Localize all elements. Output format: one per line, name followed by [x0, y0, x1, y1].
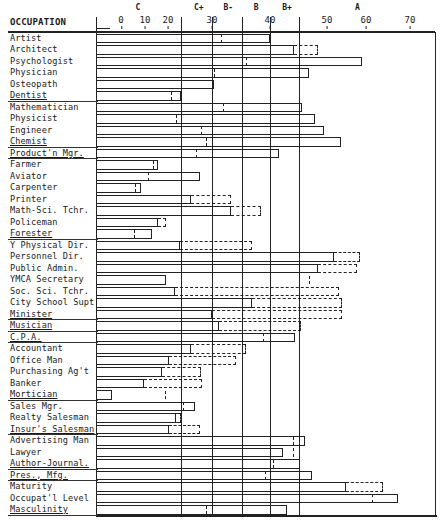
grade-label: A	[355, 3, 360, 12]
score-bar-solid	[96, 45, 294, 55]
score-bar-solid	[96, 275, 166, 285]
row-label: Banker	[10, 378, 42, 389]
grade-label: B-	[223, 3, 233, 12]
row-label: Osteopath	[10, 79, 57, 90]
score-marker-dashed	[196, 149, 197, 158]
row-label: Purchasing Ag't	[10, 366, 89, 377]
score-bar-solid	[96, 436, 305, 446]
score-marker-dashed	[148, 172, 149, 181]
row-label: Accountant	[10, 343, 63, 354]
score-bar-solid	[96, 459, 300, 469]
row-label: Advertising Man	[10, 435, 89, 446]
score-marker-dashed	[263, 333, 264, 342]
score-bar-solid	[96, 425, 169, 435]
score-bar-dashed-extension	[252, 298, 342, 308]
row-label: Masculinity	[10, 504, 68, 515]
row-label: Printer	[10, 194, 47, 205]
right-border-line	[435, 32, 436, 516]
score-bar-dashed-extension	[180, 241, 252, 251]
row-label: Mortician	[10, 389, 57, 400]
score-bar-dashed-extension	[169, 425, 200, 435]
row-label: Public Admin.	[10, 263, 79, 274]
score-bar-dashed-extension	[175, 287, 339, 297]
row-label: Minister	[10, 309, 52, 320]
score-bar-solid	[96, 482, 346, 492]
score-marker-dashed	[213, 80, 214, 89]
score-bar-solid	[96, 114, 315, 124]
score-bar-solid	[96, 494, 398, 504]
row-label: Physician	[10, 67, 57, 78]
score-bar-dashed-extension	[318, 264, 357, 274]
x-tick-label: 10	[140, 15, 151, 25]
score-bar-solid	[96, 80, 214, 90]
score-marker-dashed	[135, 184, 136, 193]
score-bar-solid	[96, 91, 181, 101]
score-bar-solid	[96, 448, 283, 458]
score-marker-dashed	[221, 34, 222, 43]
score-bar-solid	[96, 333, 295, 343]
row-label: Dentist	[10, 90, 47, 101]
score-marker-dashed	[223, 103, 224, 112]
occupational-interest-chart: OCCUPATION CC+B-BB+A 010203040506070 Art…	[0, 0, 442, 524]
score-bar-dashed-extension	[212, 310, 342, 320]
grade-label: B	[254, 3, 259, 12]
score-bar-solid	[96, 103, 302, 113]
score-marker-dashed	[265, 471, 266, 480]
score-bar-dashed-extension	[191, 344, 246, 354]
score-bar-solid	[96, 471, 312, 481]
score-marker-dashed	[153, 161, 154, 170]
score-bar-dashed-extension	[334, 252, 360, 262]
score-bar-solid	[96, 149, 279, 159]
score-bar-solid	[96, 126, 324, 136]
score-bar-solid	[96, 298, 252, 308]
score-bar-solid	[96, 287, 175, 297]
row-label: Math-Sci. Tchr.	[10, 205, 89, 216]
score-bar-solid	[96, 356, 169, 366]
group-separator	[8, 515, 98, 516]
score-bar-solid	[96, 229, 152, 239]
score-bar-solid	[96, 505, 287, 515]
score-bar-solid	[96, 367, 162, 377]
score-bar-solid	[96, 34, 270, 44]
score-marker-dashed	[176, 115, 177, 124]
score-bar-solid	[96, 402, 195, 412]
score-bar-solid	[96, 344, 191, 354]
score-marker-dashed	[214, 69, 215, 78]
row-label: Insur's Salesman	[10, 424, 94, 435]
row-label: Author-Journal.	[10, 458, 89, 469]
score-bar-dashed-extension	[191, 195, 231, 205]
zero-baseline-stub	[96, 28, 110, 29]
row-label: Artist	[10, 33, 42, 44]
row-label: Physicist	[10, 113, 57, 124]
score-bar-dashed-extension	[158, 218, 166, 228]
score-bar-solid	[96, 252, 334, 262]
row-label: Policeman	[10, 217, 57, 228]
row-label: Personnel Dir.	[10, 251, 84, 262]
row-label: Maturity	[10, 481, 52, 492]
score-bar-solid	[96, 321, 219, 331]
row-label: Forester	[10, 228, 52, 239]
score-bar-dashed-extension	[162, 367, 201, 377]
score-bar-solid	[96, 195, 191, 205]
row-label: Musician	[10, 320, 52, 331]
header-rule	[8, 31, 435, 33]
row-label: Carpenter	[10, 182, 57, 193]
score-bar-solid	[96, 137, 341, 147]
row-label: YMCA Secretary	[10, 274, 84, 285]
score-marker-dashed	[293, 437, 294, 446]
score-bar-solid	[96, 310, 212, 320]
row-label: Pres., Mfg.	[10, 470, 68, 481]
row-label: Realty Salesman	[10, 412, 89, 423]
bottom-rule	[96, 515, 437, 517]
row-label: Mathematician	[10, 102, 79, 113]
score-bar-solid	[96, 57, 362, 67]
row-label: Y Physical Dir.	[10, 240, 89, 251]
column-header: OCCUPATION	[10, 17, 66, 27]
score-bar-solid	[96, 206, 231, 216]
score-marker-dashed	[171, 92, 172, 101]
row-label: C.P.A.	[10, 332, 42, 343]
x-tick-label: 60	[361, 15, 372, 25]
row-label: Architect	[10, 44, 57, 55]
score-bar-solid	[96, 390, 112, 400]
score-marker-dashed	[293, 448, 294, 457]
